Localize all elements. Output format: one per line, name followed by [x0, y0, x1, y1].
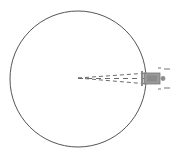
vehicle-object-inner-band [147, 76, 157, 82]
figure-root: Circle with dashed beam cone and object … [0, 0, 179, 160]
diagram-canvas [0, 0, 179, 160]
object-tail-bar [141, 71, 143, 86]
object-nose-dot [161, 76, 166, 81]
